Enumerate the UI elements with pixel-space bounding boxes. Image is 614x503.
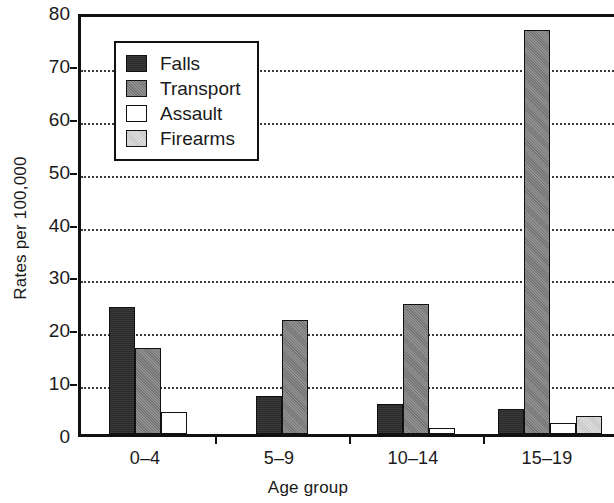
bar-chart: Rates per 100,000 01020304050607080 0–45…	[0, 0, 614, 503]
bar-transport-1	[282, 320, 308, 434]
y-tick-label: 40	[8, 216, 70, 235]
legend-item: Assault	[126, 101, 241, 126]
y-tick-label: 80	[8, 4, 70, 23]
y-tick-label: 70	[8, 57, 70, 76]
y-tick-mark	[70, 278, 77, 280]
legend-swatch-assault	[126, 105, 147, 122]
y-tick-label: 10	[8, 374, 70, 393]
y-tick-mark	[70, 173, 77, 175]
y-tick-label: 50	[8, 163, 70, 182]
y-tick-mark	[70, 331, 77, 333]
legend-item: Falls	[126, 51, 241, 76]
y-tick-mark	[70, 384, 77, 386]
bar-transport-2	[403, 304, 429, 434]
legend-label-falls: Falls	[160, 54, 200, 73]
y-tick-mark	[70, 226, 77, 228]
x-tick-mark	[349, 434, 351, 444]
bar-group	[349, 17, 483, 434]
y-tick-label: 20	[8, 321, 70, 340]
bar-falls-2	[377, 404, 403, 434]
legend-swatch-firearms	[126, 130, 147, 147]
legend-swatch-falls	[126, 55, 147, 72]
legend: Falls Transport Assault Firearms	[114, 41, 259, 161]
x-tick-label: 5–9	[212, 448, 346, 469]
y-tick-label: 30	[8, 268, 70, 287]
bar-assault-3	[550, 423, 576, 434]
bar-transport-3	[524, 30, 550, 434]
legend-label-firearms: Firearms	[160, 129, 235, 148]
bar-falls-1	[256, 396, 282, 434]
x-axis-title: Age group	[78, 478, 538, 498]
bar-firearms-3	[576, 416, 602, 435]
legend-label-transport: Transport	[160, 79, 241, 98]
y-tick-mark	[70, 120, 77, 122]
y-tick-mark	[70, 67, 77, 69]
y-axis-tick-labels: 01020304050607080	[0, 14, 70, 437]
bar-group	[483, 17, 614, 434]
bar-transport-0	[135, 348, 161, 434]
legend-label-assault: Assault	[160, 104, 222, 123]
legend-item: Transport	[126, 76, 241, 101]
x-tick-label: 10–14	[346, 448, 480, 469]
x-tick-label: 15–19	[480, 448, 614, 469]
bar-assault-2	[429, 428, 455, 434]
legend-item: Firearms	[126, 126, 241, 151]
bar-assault-0	[161, 412, 187, 434]
y-tick-label: 0	[8, 427, 70, 446]
y-tick-label: 60	[8, 110, 70, 129]
legend-swatch-transport	[126, 80, 147, 97]
bar-falls-3	[498, 409, 524, 434]
x-tick-mark	[215, 434, 217, 444]
bar-falls-0	[109, 307, 135, 434]
x-tick-mark	[483, 434, 485, 444]
x-tick-label: 0–4	[78, 448, 212, 469]
